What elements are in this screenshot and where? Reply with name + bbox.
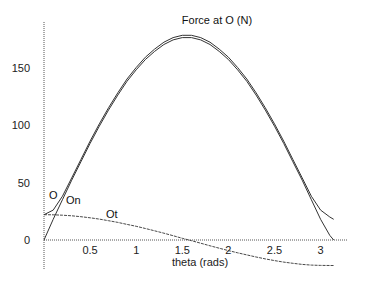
x-tick-label: 2.5	[267, 244, 282, 256]
x-axis-label: theta (rads)	[172, 256, 228, 268]
force-chart: 050100150 0.511.522.53 Force at O (N) th…	[0, 0, 368, 291]
axes	[44, 22, 348, 270]
curve-On	[44, 38, 334, 240]
label-O: O	[49, 189, 58, 201]
y-tick-label: 50	[18, 177, 30, 189]
x-tick-label: 0.5	[82, 244, 97, 256]
y-tick-label: 0	[24, 234, 30, 246]
curves	[44, 35, 334, 265]
y-tick-label: 100	[12, 119, 30, 131]
x-tick-label: 1	[133, 244, 139, 256]
y-tick-label: 150	[12, 62, 30, 74]
x-tick-label: 3	[318, 244, 324, 256]
x-tick-label: 1.5	[175, 244, 190, 256]
label-On: On	[66, 194, 81, 206]
chart-title: Force at O (N)	[182, 14, 252, 26]
label-Ot: Ot	[106, 208, 118, 220]
y-tick-labels: 050100150	[12, 62, 30, 247]
x-tick-labels: 0.511.522.53	[82, 244, 323, 256]
curve-O	[44, 35, 334, 219]
